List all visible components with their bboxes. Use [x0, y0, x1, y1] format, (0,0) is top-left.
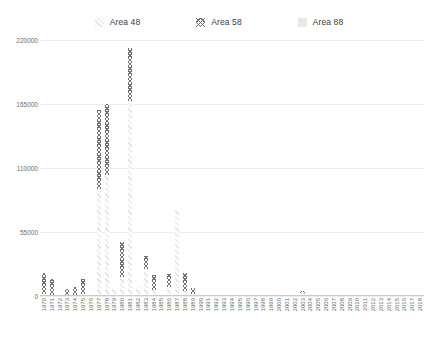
bar-group[interactable]: [324, 40, 328, 296]
x-axis-tick-label: 1977: [96, 298, 102, 311]
bar-group[interactable]: [355, 40, 359, 296]
bar-segment[interactable]: [97, 189, 101, 296]
bar-group[interactable]: [128, 40, 132, 296]
bar-segment[interactable]: [42, 273, 46, 294]
bar-group[interactable]: [300, 40, 304, 296]
bar-group[interactable]: [89, 40, 93, 296]
bar-group[interactable]: [371, 40, 375, 296]
bar-group[interactable]: [159, 40, 163, 296]
bar-group[interactable]: [97, 40, 101, 296]
bar-segment[interactable]: [128, 48, 132, 100]
bar-group[interactable]: [81, 40, 85, 296]
bar-segment[interactable]: [105, 175, 109, 296]
bar-group[interactable]: [410, 40, 414, 296]
bar-group[interactable]: [387, 40, 391, 296]
x-axis-tick-label: 1992: [213, 298, 219, 311]
bar-group[interactable]: [340, 40, 344, 296]
bar-group[interactable]: [105, 40, 109, 296]
bar-group[interactable]: [261, 40, 265, 296]
x-axis-tick-label: 1979: [111, 298, 117, 311]
x-axis-tick-label: 1999: [268, 298, 274, 311]
bar-segment[interactable]: [120, 277, 124, 296]
bar-group[interactable]: [112, 40, 116, 296]
x-axis-tick-label: 1973: [64, 298, 70, 311]
legend-swatch-icon-area-88: [298, 18, 307, 27]
legend-label-area-48: Area 48: [110, 17, 140, 27]
bar-segment[interactable]: [175, 210, 179, 296]
bar-segment[interactable]: [167, 274, 171, 287]
y-axis-tick-label: 110000: [0, 165, 38, 172]
bar-group[interactable]: [379, 40, 383, 296]
bar-group[interactable]: [363, 40, 367, 296]
bar-group[interactable]: [136, 40, 140, 296]
legend-item-area-48[interactable]: Area 48: [95, 17, 140, 27]
bar-group[interactable]: [285, 40, 289, 296]
bar-segment[interactable]: [120, 242, 124, 277]
bar-group[interactable]: [238, 40, 242, 296]
bar-segment[interactable]: [97, 110, 101, 189]
bar-group[interactable]: [332, 40, 336, 296]
bar-segment[interactable]: [105, 104, 109, 175]
bar-group[interactable]: [42, 40, 46, 296]
bar-group[interactable]: [191, 40, 195, 296]
bar-group[interactable]: [222, 40, 226, 296]
y-axis-tick-label: 220000: [0, 37, 38, 44]
bar-segment[interactable]: [73, 287, 77, 295]
x-axis-tick-label: 2006: [323, 298, 329, 311]
x-axis-tick-label: 2012: [370, 298, 376, 311]
bar-group[interactable]: [206, 40, 210, 296]
bar-group[interactable]: [269, 40, 273, 296]
bar-group[interactable]: [120, 40, 124, 296]
bar-group[interactable]: [418, 40, 422, 296]
legend-label-area-88: Area 88: [313, 17, 343, 27]
bar-group[interactable]: [50, 40, 54, 296]
x-axis-tick-label: 1972: [57, 298, 63, 311]
bar-group[interactable]: [183, 40, 187, 296]
bar-segment[interactable]: [81, 279, 85, 294]
bar-group[interactable]: [402, 40, 406, 296]
bar-group[interactable]: [152, 40, 156, 296]
bar-group[interactable]: [316, 40, 320, 296]
bar-group[interactable]: [144, 40, 148, 296]
x-axis-tick-label: 1995: [237, 298, 243, 311]
bar-group[interactable]: [293, 40, 297, 296]
bar-group[interactable]: [214, 40, 218, 296]
y-axis-tick-label: 165000: [0, 101, 38, 108]
x-axis-tick-label: 2005: [315, 298, 321, 311]
bar-group[interactable]: [199, 40, 203, 296]
legend-swatch-icon-area-58: [196, 18, 205, 27]
legend-item-area-58[interactable]: Area 58: [196, 17, 241, 27]
bar-segment[interactable]: [183, 273, 187, 292]
legend-item-area-88[interactable]: Area 88: [298, 17, 343, 27]
bar-group[interactable]: [175, 40, 179, 296]
bar-segment[interactable]: [144, 269, 148, 296]
x-axis-tick-label: 1983: [143, 298, 149, 311]
bar-group[interactable]: [58, 40, 62, 296]
bar-segment[interactable]: [50, 279, 54, 295]
bar-segment[interactable]: [152, 275, 156, 290]
x-axis-labels: 1970197119721973197419751976197719781979…: [40, 298, 424, 337]
bar-group[interactable]: [230, 40, 234, 296]
bar-segment[interactable]: [128, 101, 132, 296]
x-axis-tick-label: 2003: [300, 298, 306, 311]
bar-group[interactable]: [65, 40, 69, 296]
x-axis-tick-label: 2013: [378, 298, 384, 311]
x-axis-tick-label: 2010: [354, 298, 360, 311]
chart-root: Area 48 Area 58 Area 88 0550001100001650…: [0, 0, 438, 337]
bar-group[interactable]: [253, 40, 257, 296]
legend-label-area-58: Area 58: [211, 17, 241, 27]
bar-group[interactable]: [167, 40, 171, 296]
bar-group[interactable]: [73, 40, 77, 296]
x-axis-tick-label: 1987: [174, 298, 180, 311]
bar-group[interactable]: [395, 40, 399, 296]
x-axis-tick-label: 1985: [158, 298, 164, 311]
x-axis-tick-label: 1986: [166, 298, 172, 311]
x-axis-tick-label: 2017: [409, 298, 415, 311]
x-axis-tick-label: 1989: [190, 298, 196, 311]
bar-group[interactable]: [246, 40, 250, 296]
bar-group[interactable]: [277, 40, 281, 296]
bar-segment[interactable]: [144, 256, 148, 269]
x-axis-tick-label: 2007: [331, 298, 337, 311]
bar-group[interactable]: [348, 40, 352, 296]
bar-group[interactable]: [308, 40, 312, 296]
